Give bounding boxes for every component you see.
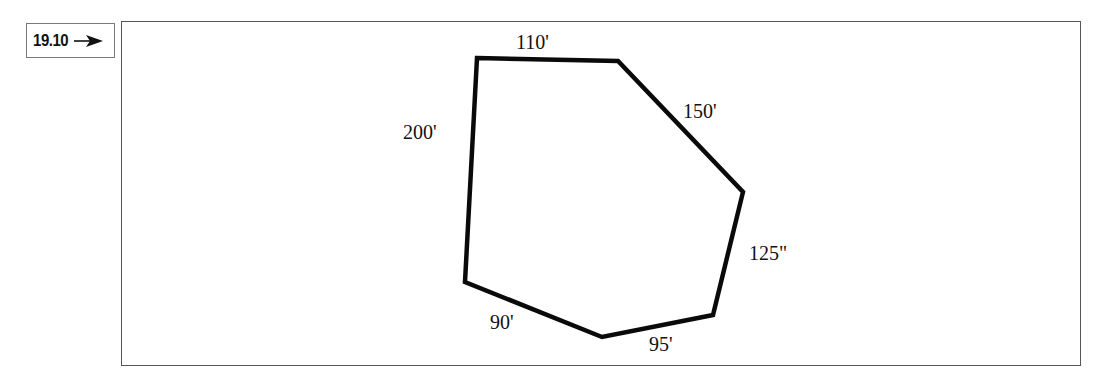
side-label-top: 110'	[516, 31, 549, 53]
side-label-bottom-left: 90'	[490, 311, 514, 333]
lot-polygon-diagram: 110' 150' 125" 95' 90' 200'	[0, 0, 1096, 386]
side-label-left: 200'	[403, 121, 437, 143]
side-label-bottom-right: 95'	[649, 333, 673, 355]
side-label-right: 125"	[749, 242, 787, 264]
side-label-upper-right: 150'	[683, 100, 717, 122]
